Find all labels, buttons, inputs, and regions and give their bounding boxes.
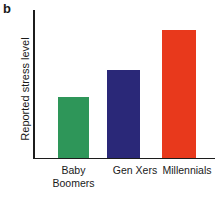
bar-millennials [162, 30, 196, 158]
x-tick-label-millennials: Millennials [154, 164, 220, 177]
bar-baby-boomers [58, 97, 89, 158]
bar-gen-xers [107, 70, 140, 158]
x-tick-label-baby-boomers: Baby Boomers [43, 164, 104, 189]
bar-chart-figure: b Reported stress level Baby Boomers Gen… [0, 0, 222, 200]
plot-area [0, 0, 222, 158]
